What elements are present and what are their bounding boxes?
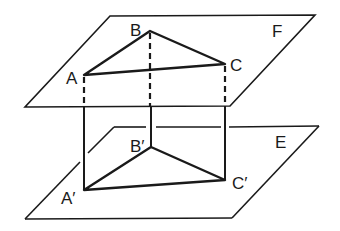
vertex-label-b: B (130, 21, 141, 40)
vertex-label-a-prime: A′ (61, 189, 76, 208)
vertex-label-b-prime: B′ (130, 137, 145, 156)
prism-diagram: B A C F B′ A′ C′ E (0, 0, 340, 231)
vertex-label-c-prime: C′ (232, 174, 247, 193)
vertex-label-a: A (66, 69, 78, 88)
triangle-a-prime-b-prime-c-prime (84, 147, 225, 190)
plane-label-e: E (275, 133, 286, 152)
plane-label-f: F (272, 22, 282, 41)
vertex-label-c: C (230, 56, 242, 75)
